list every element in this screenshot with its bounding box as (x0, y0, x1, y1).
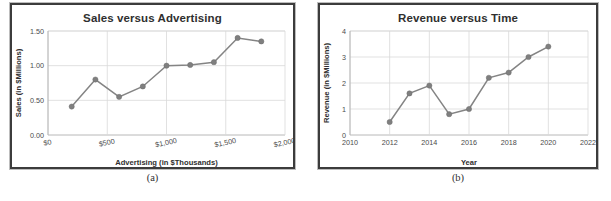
x-tick-label: $1,000 (154, 136, 177, 149)
data-point (211, 60, 216, 65)
data-point (69, 104, 74, 109)
y-tick-label: 1 (342, 105, 346, 114)
y-tick-label: 2 (342, 79, 346, 88)
panel-a-outer-frame: Sales versus Advertising 0.000.501.001.5… (9, 2, 296, 170)
figure-row: Sales versus Advertising 0.000.501.001.5… (0, 0, 611, 201)
x-tick-label: $500 (98, 136, 116, 148)
data-point (117, 94, 122, 99)
data-point (259, 39, 264, 44)
data-point (506, 70, 511, 75)
data-point (164, 63, 169, 68)
panel-a-inner-frame: Sales versus Advertising 0.000.501.001.5… (10, 3, 295, 169)
chart-b-plot: 012342010201220142016201820202022YearRev… (320, 5, 596, 167)
data-point (486, 75, 491, 80)
data-point (387, 119, 392, 124)
data-point (526, 54, 531, 59)
x-tick-label: 2018 (501, 138, 517, 147)
x-axis-title: Advertising (in $Thousands) (115, 158, 218, 167)
x-tick-label: $2,000 (273, 136, 293, 149)
y-tick-label: 1.50 (30, 27, 44, 36)
data-point (93, 77, 98, 82)
x-tick-label: 2012 (382, 138, 398, 147)
x-tick-label: 2020 (540, 138, 556, 147)
panel-a-caption: (a) (147, 172, 159, 183)
chart-panel-a: Sales versus Advertising 0.000.501.001.5… (0, 0, 305, 201)
data-point (546, 44, 551, 49)
data-point (188, 62, 193, 67)
y-tick-label: 3 (342, 53, 346, 62)
data-point (407, 91, 412, 96)
chart-panel-b: Revenue versus Time 01234201020122014201… (305, 0, 611, 201)
x-tick-label: 2014 (421, 138, 437, 147)
x-axis-title: Year (461, 158, 477, 167)
y-axis-title: Revenue (in $Millions) (322, 42, 331, 123)
x-tick-label: 2022 (580, 138, 596, 147)
data-point (140, 84, 145, 89)
data-point (427, 83, 432, 88)
data-point (235, 35, 240, 40)
data-point (466, 106, 471, 111)
y-tick-label: 4 (342, 27, 346, 36)
panel-b-caption: (b) (452, 172, 464, 183)
x-tick-label: $0 (43, 137, 53, 147)
x-tick-label: 2010 (342, 138, 358, 147)
y-axis-title: Sales (in $Millions) (14, 48, 23, 117)
data-point (447, 112, 452, 117)
panel-b-outer-frame: Revenue versus Time 01234201020122014201… (317, 2, 599, 170)
chart-a-plot: 0.000.501.001.50$0$500$1,000$1,500$2,000… (12, 5, 293, 167)
y-tick-label: 0.50 (30, 96, 44, 105)
x-tick-label: $1,500 (214, 136, 237, 149)
panel-b-inner-frame: Revenue versus Time 01234201020122014201… (318, 3, 598, 169)
x-tick-label: 2016 (461, 138, 477, 147)
y-tick-label: 1.00 (30, 61, 44, 70)
